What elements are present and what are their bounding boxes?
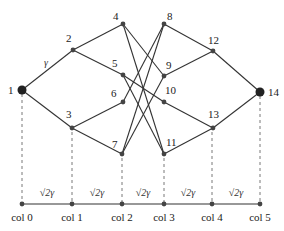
node-label: 11: [166, 136, 177, 148]
edge-3-6: [72, 102, 123, 128]
node: [121, 22, 126, 27]
spacing-label: √2γ: [136, 187, 151, 198]
node-label: 12: [208, 34, 219, 46]
node-label: 9: [166, 59, 172, 71]
spacing-label: √2γ: [229, 187, 244, 198]
node: [211, 49, 216, 54]
node-label: 1: [8, 84, 14, 96]
column-label: col 5: [249, 211, 271, 223]
spacing-label: √2γ: [90, 187, 105, 198]
axis-point: [20, 202, 25, 207]
node: [121, 73, 126, 78]
column-label: col 1: [61, 211, 83, 223]
column-label: col 4: [201, 211, 223, 223]
spacing-label: √2γ: [40, 187, 55, 198]
node: [70, 126, 75, 131]
axis-point: [120, 202, 125, 207]
edge-12-14: [213, 51, 260, 92]
node-label: 2: [66, 32, 72, 44]
column-label: col 0: [11, 211, 33, 223]
spacing-label: √2γ: [181, 187, 196, 198]
node-label: 8: [167, 10, 173, 22]
node-label: 10: [165, 84, 177, 96]
node: [162, 22, 167, 27]
graph-edges: [22, 24, 260, 154]
edge-8-12: [164, 24, 213, 51]
node-label: 6: [111, 87, 117, 99]
node: [211, 126, 216, 131]
edge-1-2: [22, 50, 73, 90]
node-label: 3: [66, 108, 72, 120]
graph-nodes: [18, 22, 265, 157]
column-label: col 3: [153, 211, 175, 223]
node-label: 13: [208, 108, 220, 120]
node: [162, 100, 167, 105]
graph-diagram: col 0col 1col 2col 3col 4col 5√2γ√2γ√2γ√…: [0, 0, 284, 231]
node-label: 14: [268, 86, 280, 98]
column-label: col 2: [111, 211, 133, 223]
node: [162, 152, 167, 157]
terminal-node: [256, 88, 265, 97]
node: [71, 48, 76, 53]
edge-10-13: [164, 102, 213, 128]
graph-svg: col 0col 1col 2col 3col 4col 5√2γ√2γ√2γ√…: [0, 0, 284, 231]
node: [121, 100, 126, 105]
edge-weight-label: γ: [44, 57, 49, 68]
edge-2-4: [73, 24, 123, 50]
column-axis: col 0col 1col 2col 3col 4col 5√2γ√2γ√2γ√…: [11, 187, 271, 223]
node-label: 7: [112, 138, 118, 150]
edge-13-14: [213, 92, 260, 128]
edge-4-9: [123, 24, 164, 76]
terminal-node: [18, 86, 27, 95]
axis-point: [70, 202, 75, 207]
node-labels: γ1234567891011121314: [8, 10, 280, 150]
axis-point: [210, 202, 215, 207]
node: [162, 74, 167, 79]
node-label: 4: [113, 10, 119, 22]
edge-1-3: [22, 90, 72, 128]
node: [120, 152, 125, 157]
node-label: 5: [112, 57, 118, 69]
axis-point: [162, 202, 167, 207]
axis-point: [258, 202, 263, 207]
